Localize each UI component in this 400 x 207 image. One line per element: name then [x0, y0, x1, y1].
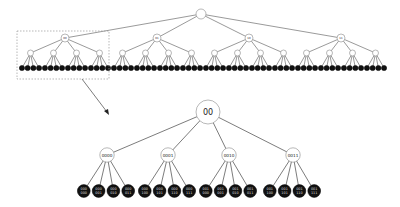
detail-leaf-label: 010	[232, 191, 238, 195]
overview-level2-node	[97, 50, 103, 56]
detail-nodes: 0000000000010000100000110000000100000101…	[77, 100, 320, 197]
overview-leaf-node	[77, 65, 82, 70]
overview-leaf-node	[330, 65, 335, 70]
overview-leaf-node	[301, 65, 306, 70]
detail-leaf-label: 001	[217, 187, 223, 191]
overview-leaf-node	[243, 65, 248, 70]
detail-leaf-label: 111	[186, 191, 192, 195]
detail-root-label: 00	[203, 108, 213, 117]
overview-level2-node	[189, 50, 195, 56]
overview-leaf-node	[220, 65, 225, 70]
overview-level2-node	[74, 50, 80, 56]
overview-leaf-node	[272, 65, 277, 70]
detail-leaf-label: 100	[142, 191, 148, 195]
overview-level2-node	[235, 50, 241, 56]
overview-leaf-node	[134, 65, 139, 70]
detail-leaf-label: 001	[296, 187, 302, 191]
overview-leaf-node	[19, 65, 24, 70]
overview-leaf-node	[261, 65, 266, 70]
detail-leaf-label: 110	[296, 191, 302, 195]
overview-leaf-node	[324, 65, 329, 70]
overview-level1-label: 01	[155, 37, 159, 40]
overview-level2-node	[51, 50, 57, 56]
detail-edges	[84, 112, 314, 191]
overview-leaf-node	[180, 65, 185, 70]
detail-leaf-label: 000	[81, 187, 87, 191]
detail-level1-label: 0000	[102, 153, 113, 158]
overview-leaf-node	[59, 65, 64, 70]
detail-leaf-label: 001	[217, 191, 223, 195]
overview-leaf-node	[307, 65, 312, 70]
overview-leaf-node	[284, 65, 289, 70]
overview-leaf-node	[146, 65, 151, 70]
detail-leaf-label: 101	[156, 191, 162, 195]
detail-leaf-label: 000	[81, 191, 87, 195]
overview-leaf-node	[232, 65, 237, 70]
overview-leaf-node	[186, 65, 191, 70]
overview-leaf-node	[128, 65, 133, 70]
overview-leaf-node	[105, 65, 110, 70]
overview-leaf-node	[215, 65, 220, 70]
detail-leaf-label: 101	[281, 191, 287, 195]
overview-level1-label: 10	[247, 37, 251, 40]
detail-leaf-label: 001	[203, 187, 209, 191]
overview-leaf-node	[192, 65, 197, 70]
overview-leaf-node	[151, 65, 156, 70]
overview-leaf-node	[364, 65, 369, 70]
overview-leaf-node	[140, 65, 145, 70]
overview-leaf-node	[65, 65, 70, 70]
detail-leaf-label: 111	[311, 191, 317, 195]
overview-level2-node	[28, 50, 34, 56]
detail-level1-label: 0010	[224, 153, 235, 158]
overview-leaf-node	[370, 65, 375, 70]
overview-level2-node	[143, 50, 149, 56]
overview-leaf-node	[381, 65, 386, 70]
overview-leaf-node	[278, 65, 283, 70]
overview-leaf-node	[111, 65, 116, 70]
overview-leaf-node	[209, 65, 214, 70]
overview-level2-node	[373, 50, 379, 56]
overview-leaf-node	[54, 65, 59, 70]
overview-nodes: 00011011	[19, 9, 386, 71]
detail-leaf-label: 000	[203, 191, 209, 195]
overview-leaf-node	[48, 65, 53, 70]
overview-level2-node	[281, 50, 287, 56]
overview-level2-node	[120, 50, 126, 56]
overview-leaf-node	[174, 65, 179, 70]
overview-leaf-node	[358, 65, 363, 70]
overview-leaf-node	[25, 65, 30, 70]
detail-leaf-label: 001	[95, 191, 101, 195]
detail-leaf-label: 000	[156, 187, 162, 191]
overview-leaf-node	[353, 65, 358, 70]
detail-tree: 0000000000010000100000110000000100000101…	[77, 100, 320, 197]
overview-leaf-node	[31, 65, 36, 70]
detail-leaf-label: 000	[125, 187, 131, 191]
overview-leaf-node	[341, 65, 346, 70]
overview-level2-node	[212, 50, 218, 56]
overview-leaf-node	[238, 65, 243, 70]
overview-edges	[22, 14, 384, 68]
detail-leaf-label: 110	[171, 191, 177, 195]
overview-leaf-node	[289, 65, 294, 70]
overview-leaf-node	[94, 65, 99, 70]
overview-leaf-node	[157, 65, 162, 70]
overview-leaf-node	[249, 65, 254, 70]
overview-root-node	[196, 9, 206, 19]
overview-leaf-node	[295, 65, 300, 70]
detail-leaf-label: 001	[267, 187, 273, 191]
overview-leaf-node	[376, 65, 381, 70]
overview-leaf-node	[42, 65, 47, 70]
overview-leaf-node	[318, 65, 323, 70]
overview-leaf-node	[347, 65, 352, 70]
overview-leaf-node	[163, 65, 168, 70]
overview-leaf-node	[255, 65, 260, 70]
detail-level1-label: 0011	[288, 153, 299, 158]
overview-level2-node	[304, 50, 310, 56]
overview-tree: 00011011	[19, 9, 386, 71]
overview-leaf-node	[266, 65, 271, 70]
overview-leaf-node	[123, 65, 128, 70]
detail-leaf-label: 010	[110, 191, 116, 195]
detail-leaf-label: 001	[281, 187, 287, 191]
overview-level2-node	[327, 50, 333, 56]
zoom-arrow	[82, 79, 109, 115]
